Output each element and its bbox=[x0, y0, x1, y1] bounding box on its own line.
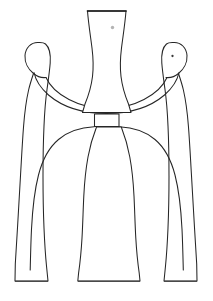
tripod-figure-artwork bbox=[0, 0, 213, 301]
waist-band bbox=[95, 114, 120, 127]
right-figure-eye-icon bbox=[171, 55, 173, 57]
column-speck-mark bbox=[111, 26, 114, 29]
drawing-canvas: Abstract line drawing of a tripod figure bbox=[0, 0, 213, 301]
